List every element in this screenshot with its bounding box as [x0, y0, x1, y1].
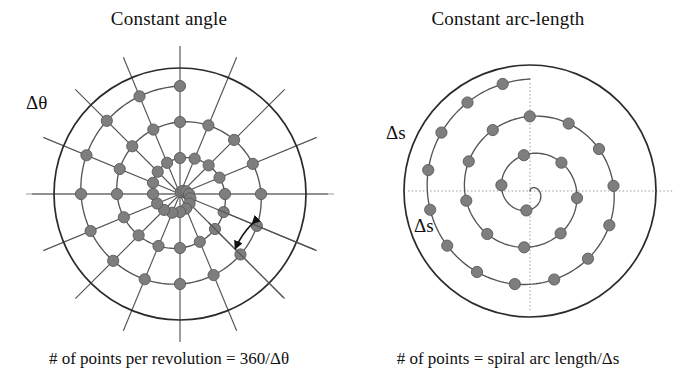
diagram-constant-angle: Δθ	[0, 0, 338, 375]
sample-point	[436, 127, 447, 138]
sample-point	[496, 180, 507, 191]
sample-point	[203, 160, 214, 171]
sample-point	[442, 240, 453, 251]
sample-point	[118, 212, 129, 223]
sample-point	[521, 205, 532, 216]
sample-point	[524, 111, 535, 122]
sample-point	[509, 278, 520, 289]
annotation-spoke-1	[208, 222, 283, 297]
sample-points-group	[423, 78, 619, 289]
delta-theta-arc-arrow	[235, 224, 252, 249]
sample-point	[255, 188, 266, 199]
sample-point	[85, 225, 96, 236]
sample-point	[174, 116, 185, 127]
panel-constant-angle: Constant angle Δθ # of points per revolu…	[0, 0, 338, 375]
sample-point	[563, 118, 574, 129]
sample-point	[582, 253, 593, 264]
sample-point	[101, 115, 112, 126]
delta-s-label-1: Δs	[386, 122, 406, 143]
sample-point	[519, 242, 530, 253]
sample-point	[147, 177, 158, 188]
sample-point	[571, 192, 582, 203]
sample-point	[174, 80, 185, 91]
sample-point	[425, 204, 436, 215]
delta-s-label-2: Δs	[414, 215, 434, 236]
sample-point	[147, 188, 158, 199]
sample-point	[139, 274, 150, 285]
sample-point	[247, 158, 258, 169]
sample-point	[111, 188, 122, 199]
sample-point	[174, 278, 185, 289]
sample-point	[194, 236, 205, 247]
sample-point	[608, 180, 619, 191]
sample-point	[174, 152, 185, 163]
sample-point	[81, 150, 92, 161]
sample-point	[228, 134, 239, 145]
constant-angle-svg: Δθ	[0, 0, 338, 375]
sample-point	[152, 166, 163, 177]
sample-point	[604, 220, 615, 231]
sample-point	[161, 157, 172, 168]
sample-point	[174, 242, 185, 253]
figure-root: Constant angle Δθ # of points per revolu…	[0, 0, 677, 375]
sample-point	[593, 143, 604, 154]
sample-point	[75, 188, 86, 199]
sample-point	[153, 240, 164, 251]
panel-caption-right: # of points = spiral arc length/Δs	[339, 349, 677, 369]
sample-point	[462, 97, 473, 108]
sample-point	[518, 150, 529, 161]
sample-point	[487, 124, 498, 135]
sample-point	[555, 228, 566, 239]
sample-point	[127, 141, 138, 152]
sample-point	[219, 188, 230, 199]
sample-point	[108, 255, 119, 266]
diagram-constant-arc-length: ΔsΔs	[339, 0, 677, 375]
delta-theta-label: Δθ	[26, 92, 47, 113]
sample-point	[497, 78, 508, 89]
panel-caption-left: # of points per revolution = 360/Δθ	[0, 349, 338, 369]
constant-arc-length-svg: ΔsΔs	[339, 0, 677, 375]
sample-point	[114, 163, 125, 174]
panel-constant-arc-length: Constant arc-length ΔsΔs # of points = s…	[339, 0, 677, 375]
sample-point	[471, 266, 482, 277]
sample-point	[214, 172, 225, 183]
sample-point	[134, 91, 145, 102]
sample-point	[148, 124, 159, 135]
sample-point	[463, 156, 474, 167]
sample-point	[133, 230, 144, 241]
sample-point	[189, 153, 200, 164]
sample-point	[556, 157, 567, 168]
sample-point	[461, 195, 472, 206]
sample-point	[549, 274, 560, 285]
sample-point	[423, 164, 434, 175]
sample-point	[482, 228, 493, 239]
sample-point	[203, 120, 214, 131]
sample-point	[208, 269, 219, 280]
